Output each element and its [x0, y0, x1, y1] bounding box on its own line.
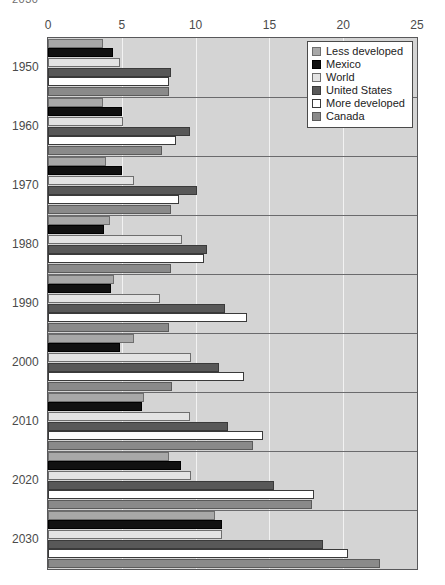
chart-legend: Less developedMexicoWorldUnited StatesMo…: [307, 41, 413, 128]
legend-label: World: [326, 72, 355, 83]
x-tick-label-5: 5: [118, 18, 125, 32]
bar-1970-canada: [48, 205, 171, 214]
bar-1980-world: [48, 235, 182, 244]
group-separator: [48, 156, 417, 157]
y-tick-label-1970: 1970: [12, 178, 39, 192]
y-tick-label-1980: 1980: [12, 237, 39, 251]
bar-2030-mexico: [48, 520, 222, 529]
bar-2030-world: [48, 530, 222, 539]
group-separator: [48, 392, 417, 393]
y-tick-label-2010: 2010: [12, 414, 39, 428]
y-tick-label-1990: 1990: [12, 296, 39, 310]
bar-1990-more-developed: [48, 313, 247, 322]
group-separator: [48, 333, 417, 334]
bar-1980-canada: [48, 264, 171, 273]
legend-label: More developed: [326, 98, 405, 109]
bar-1960-more-developed: [48, 136, 176, 145]
bar-2000-united-states: [48, 363, 219, 372]
bar-2000-mexico: [48, 343, 120, 352]
bar-1970-world: [48, 176, 134, 185]
bar-1950-less-developed: [48, 39, 103, 48]
bar-1990-united-states: [48, 304, 225, 313]
chart-root: 2030 0510152025 195019601970198019902000…: [0, 0, 445, 585]
legend-label: Canada: [326, 111, 365, 122]
bar-1960-world: [48, 117, 123, 126]
bar-2000-less-developed: [48, 334, 134, 343]
legend-swatch-icon: [312, 73, 321, 82]
bar-1960-mexico: [48, 107, 122, 116]
bar-1970-united-states: [48, 186, 197, 195]
legend-label: Mexico: [326, 59, 361, 70]
legend-label: United States: [326, 85, 392, 96]
bar-1990-world: [48, 294, 160, 303]
bar-1960-canada: [48, 146, 162, 155]
legend-item-united-states[interactable]: United States: [312, 84, 408, 96]
bar-2000-more-developed: [48, 372, 244, 381]
bar-1980-united-states: [48, 245, 207, 254]
bar-1950-united-states: [48, 68, 171, 77]
bar-2020-united-states: [48, 481, 274, 490]
bar-1980-more-developed: [48, 254, 204, 263]
bar-1980-mexico: [48, 225, 104, 234]
bar-1990-mexico: [48, 284, 111, 293]
bar-2020-world: [48, 471, 191, 480]
bar-1970-more-developed: [48, 195, 179, 204]
bar-1950-canada: [48, 87, 169, 96]
bar-2000-canada: [48, 382, 172, 391]
bar-2000-world: [48, 353, 191, 362]
bar-1990-canada: [48, 323, 169, 332]
bar-1970-mexico: [48, 166, 122, 175]
x-tick-label-15: 15: [263, 18, 276, 32]
bar-1950-mexico: [48, 48, 113, 57]
y-tick-label-2000: 2000: [12, 355, 39, 369]
legend-swatch-icon: [312, 60, 321, 69]
chart-title-fragment: 2030: [12, 0, 38, 5]
y-tick-label-2020: 2020: [12, 473, 39, 487]
bar-2020-canada: [48, 500, 312, 509]
bar-1950-more-developed: [48, 77, 169, 86]
bar-2030-united-states: [48, 540, 323, 549]
legend-item-world[interactable]: World: [312, 71, 408, 83]
bar-1960-less-developed: [48, 98, 103, 107]
x-tick-label-0: 0: [45, 18, 52, 32]
bar-2010-world: [48, 412, 190, 421]
group-separator: [48, 215, 417, 216]
bar-1960-united-states: [48, 127, 190, 136]
legend-swatch-icon: [312, 112, 321, 121]
bar-2010-canada: [48, 441, 253, 450]
y-tick-label-2030: 2030: [12, 532, 39, 546]
group-separator: [48, 510, 417, 511]
bar-2020-mexico: [48, 461, 181, 470]
legend-item-more-developed[interactable]: More developed: [312, 97, 408, 109]
x-tick-label-25: 25: [410, 18, 423, 32]
legend-swatch-icon: [312, 86, 321, 95]
bar-1950-world: [48, 58, 120, 67]
legend-item-mexico[interactable]: Mexico: [312, 58, 408, 70]
bar-2020-more-developed: [48, 490, 314, 499]
bar-2030-canada: [48, 559, 380, 568]
legend-label: Less developed: [326, 46, 403, 57]
x-tick-label-20: 20: [337, 18, 350, 32]
group-separator: [48, 274, 417, 275]
bar-2010-more-developed: [48, 431, 263, 440]
y-tick-label-1950: 1950: [12, 60, 39, 74]
bar-2010-less-developed: [48, 393, 144, 402]
y-tick-label-1960: 1960: [12, 119, 39, 133]
bar-1980-less-developed: [48, 216, 110, 225]
bar-2020-less-developed: [48, 452, 169, 461]
group-separator: [48, 451, 417, 452]
bar-1970-less-developed: [48, 157, 106, 166]
legend-item-canada[interactable]: Canada: [312, 110, 408, 122]
bar-1990-less-developed: [48, 275, 114, 284]
legend-swatch-icon: [312, 99, 321, 108]
x-tick-label-10: 10: [189, 18, 202, 32]
legend-rows: Less developedMexicoWorldUnited StatesMo…: [312, 45, 408, 122]
bar-2010-mexico: [48, 402, 142, 411]
bar-2010-united-states: [48, 422, 228, 431]
bar-2030-more-developed: [48, 549, 348, 558]
legend-item-less-developed[interactable]: Less developed: [312, 45, 408, 57]
legend-swatch-icon: [312, 47, 321, 56]
bar-2030-less-developed: [48, 511, 215, 520]
